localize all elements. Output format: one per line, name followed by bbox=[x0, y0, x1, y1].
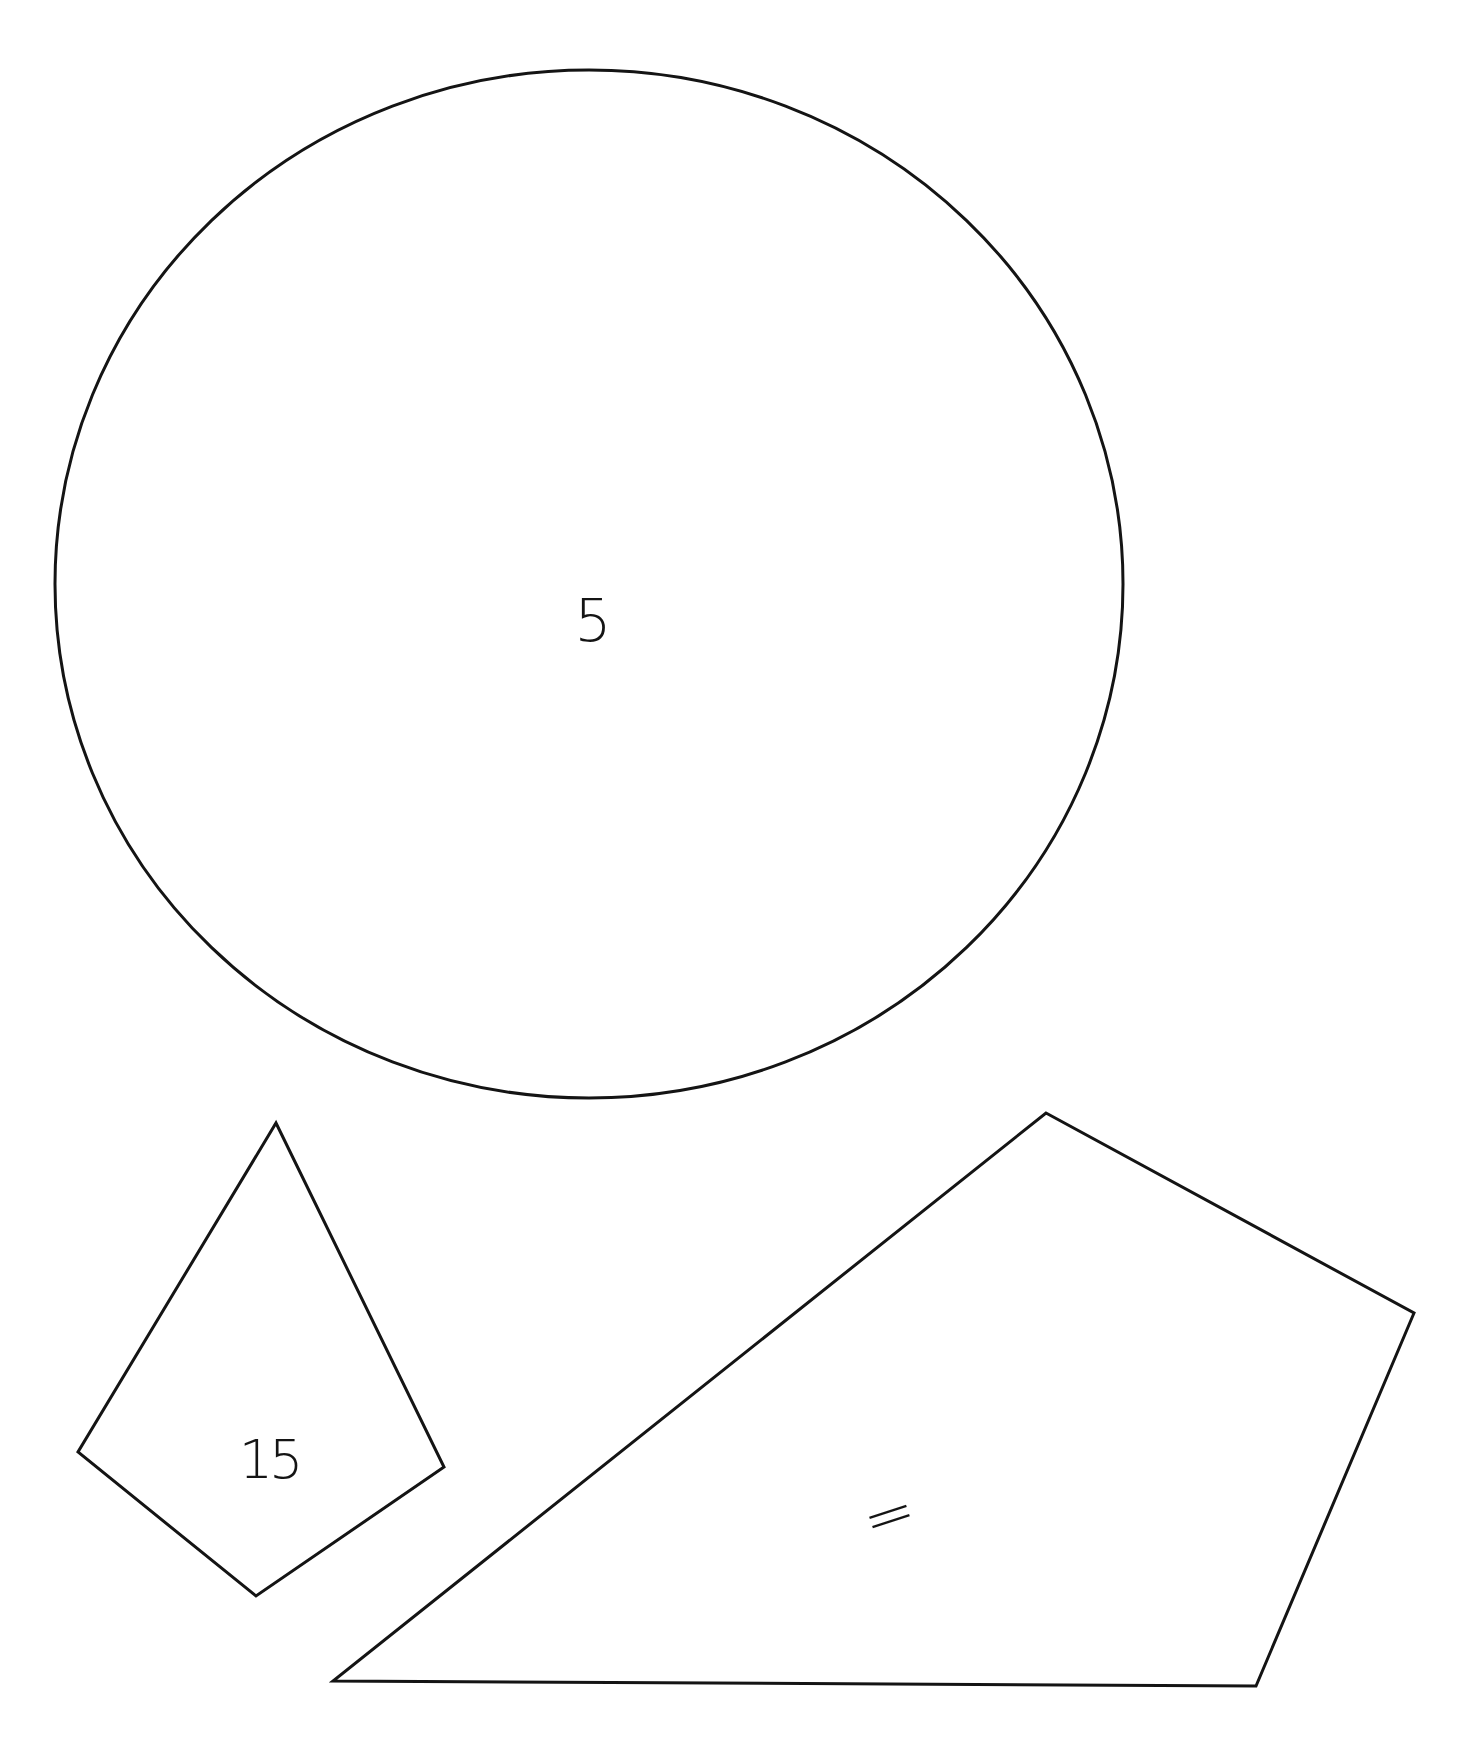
shapes-canvas bbox=[0, 0, 1484, 1737]
circle-shape bbox=[55, 70, 1123, 1098]
large-quadrilateral-shape bbox=[333, 1113, 1414, 1686]
kite-shape bbox=[78, 1123, 444, 1596]
